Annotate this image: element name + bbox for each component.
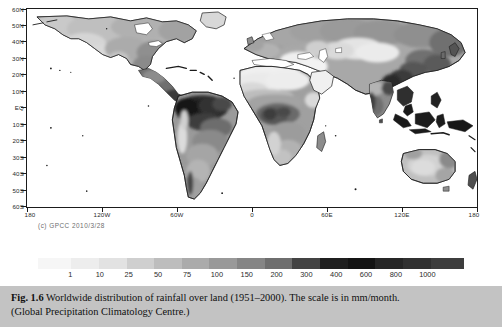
y-axis-label-40N: 40N (0, 38, 24, 45)
colorbar-label-100: 100 (211, 270, 223, 279)
colorbar-swatch-5 (182, 258, 210, 269)
x-axis-label-180e: 180 (469, 211, 480, 218)
colorbar-strip (38, 258, 464, 269)
y-axis-label-60N: 60N (0, 6, 24, 13)
x-axis-label-60E: 60E (321, 211, 333, 218)
colorbar-swatch-13 (403, 258, 431, 269)
figure-number: Fig. 1.6 (11, 292, 44, 303)
korea-peninsula (441, 52, 445, 59)
colorbar-label-50: 50 (154, 270, 162, 279)
colorbar-swatch-1 (71, 258, 99, 269)
colorbar-label-300: 300 (300, 270, 312, 279)
rainfall-map-plot (26, 8, 478, 208)
colorbar-label-150: 150 (241, 270, 253, 279)
figure-caption: Fig. 1.6 Worldwide distribution of rainf… (11, 291, 493, 318)
colorbar-swatch-7 (237, 258, 265, 269)
rainfall-colorbar: 1 10 25 50 75 100 150 200 300 400 600 80… (38, 258, 464, 282)
colorbar-swatch-12 (375, 258, 403, 269)
colorbar-label-800: 800 (390, 270, 402, 279)
y-axis-label-30N: 30N (0, 55, 24, 62)
x-axis-label-0: 0 (250, 211, 254, 218)
x-axis-label-120E: 120E (394, 211, 409, 218)
colorbar-label-200: 200 (270, 270, 282, 279)
colorbar-label-10: 10 (96, 270, 104, 279)
gpcc-credit-text: (c) GPCC 2010/3/28 (38, 222, 105, 229)
y-axis-label-50N: 50N (0, 22, 24, 29)
x-axis-label-120W: 120W (94, 211, 111, 218)
y-axis-label-50S: 50S (0, 187, 24, 194)
colorbar-swatch-0 (38, 258, 71, 269)
figure-caption-text: Worldwide distribution of rainfall over … (46, 292, 400, 303)
colorbar-tick-labels: 1 10 25 50 75 100 150 200 300 400 600 80… (38, 269, 464, 281)
colorbar-swatch-9 (292, 258, 320, 269)
colorbar-swatch-8 (265, 258, 293, 269)
tasmania (443, 186, 449, 191)
figure-caption-bar: Fig. 1.6 Worldwide distribution of rainf… (0, 286, 502, 327)
colorbar-label-400: 400 (330, 270, 342, 279)
colorbar-swatch-2 (99, 258, 127, 269)
y-axis-label-10S: 10S (0, 121, 24, 128)
aral-sea (336, 48, 342, 53)
colorbar-label-75: 75 (183, 270, 191, 279)
figure-caption-source: (Global Precipitation Climatology Centre… (11, 305, 493, 319)
figure-panel: 60N 50N 40N 30N 20N 10N EQ 10S 20S 30S 4… (0, 0, 502, 285)
y-axis-label-30S: 30S (0, 154, 24, 161)
colorbar-swatch-3 (127, 258, 155, 269)
colorbar-label-1: 1 (68, 270, 72, 279)
y-axis-label-EQ: EQ (0, 104, 24, 111)
world-map-svg (27, 9, 477, 207)
sri-lanka (379, 119, 382, 123)
colorbar-swatch-4 (154, 258, 182, 269)
colorbar-swatch-11 (348, 258, 376, 269)
colorbar-swatch-14 (431, 258, 464, 269)
y-axis-label-40S: 40S (0, 170, 24, 177)
colorbar-label-1000: 1000 (419, 270, 435, 279)
colorbar-label-25: 25 (125, 270, 133, 279)
colorbar-label-600: 600 (360, 270, 372, 279)
y-axis-label-60S: 60S (0, 203, 24, 210)
colorbar-swatch-10 (320, 258, 348, 269)
y-axis-label-20N: 20N (0, 71, 24, 78)
colorbar-swatch-6 (209, 258, 237, 269)
x-axis-label-60W: 60W (170, 211, 183, 218)
y-axis-label-10N: 10N (0, 88, 24, 95)
y-axis-label-20S: 20S (0, 137, 24, 144)
x-axis-label-180w: 180 (25, 211, 36, 218)
